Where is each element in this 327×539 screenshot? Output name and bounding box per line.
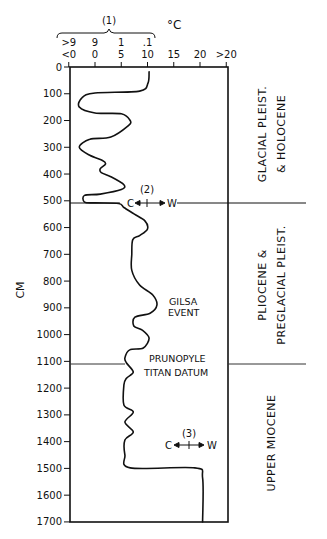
x-tick-label: <0: [61, 49, 76, 60]
y-axis-label: CM: [14, 281, 27, 298]
y-tick-label: 1500: [37, 463, 62, 474]
y-tick-label: 300: [43, 142, 62, 153]
paleotemperature-depth-chart: 0100200300400500600700800900100011001200…: [0, 0, 327, 539]
epoch-label-pliocene: PLIOCENE &: [256, 249, 269, 321]
x-tick-label: 0: [92, 49, 98, 60]
gilsa-event-label: GILSA: [169, 296, 198, 307]
epoch-label-holocene: & HOLOCENE: [275, 95, 288, 173]
scale-1-tick-label: .1: [143, 37, 153, 48]
x-tick-label: 15: [167, 49, 180, 60]
cold-label-2: C: [127, 198, 134, 209]
cold-warm-arrow-2: [135, 199, 165, 207]
epoch-label-preglacial: PREGLACIAL PLEIST.: [275, 225, 288, 344]
scale-1-tick-label: >9: [61, 37, 76, 48]
y-tick-label: 1200: [37, 383, 62, 394]
scale-1-label: (1): [102, 15, 116, 26]
gilsa-event-label-2: EVENT: [168, 307, 200, 318]
scale-1-tick-label: 1: [118, 37, 124, 48]
y-tick-label: 600: [43, 222, 62, 233]
warm-label-3: W: [207, 440, 217, 451]
y-tick-label: 900: [43, 302, 62, 313]
warm-label-2: W: [167, 198, 177, 209]
y-tick-label: 1300: [37, 409, 62, 420]
cold-label-3: C: [165, 440, 172, 451]
plot-frame: [70, 67, 228, 522]
y-tick-label: 1600: [37, 490, 62, 501]
marker-3-label: (3): [182, 428, 196, 439]
y-tick-label: 500: [43, 195, 62, 206]
y-tick-label: 700: [43, 249, 62, 260]
cold-warm-arrow-3: [174, 441, 204, 449]
y-tick-label: 1000: [37, 329, 62, 340]
y-tick-label: 1400: [37, 436, 62, 447]
scale-1-ticks: >991.1: [61, 37, 152, 48]
y-tick-label: 400: [43, 169, 62, 180]
x-tick-label: 20: [194, 49, 207, 60]
x-tick-label: 10: [141, 49, 154, 60]
x-tick-label: 5: [118, 49, 124, 60]
epoch-label-upper-miocene: UPPER MIOCENE: [265, 394, 278, 491]
unit-label: °C: [167, 18, 181, 32]
y-tick-label: 200: [43, 115, 62, 126]
prunopyle-label: PRUNOPYLE: [149, 353, 206, 364]
scale-1-tick-label: 9: [92, 37, 98, 48]
y-tick-label: 1700: [37, 516, 62, 527]
y-tick-label: 800: [43, 276, 62, 287]
y-tick-label: 100: [43, 88, 62, 99]
titan-datum-label: TITAN DATUM: [143, 367, 208, 378]
y-axis-ticks: 0100200300400500600700800900100011001200…: [37, 62, 70, 528]
y-tick-label: 1100: [37, 356, 62, 367]
x-axis-ticks: <005101520>20: [61, 49, 236, 67]
marker-2-label: (2): [140, 184, 154, 195]
y-tick-label: 0: [56, 62, 62, 73]
x-tick-label: >20: [216, 49, 237, 60]
epoch-label-glacial: GLACIAL PLEIST.: [256, 86, 269, 183]
